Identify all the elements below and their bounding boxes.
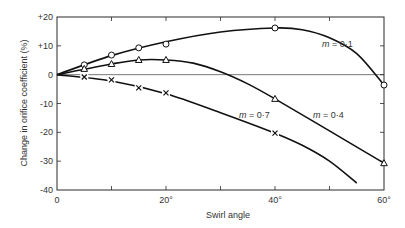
y-tick-label: 0 [48, 70, 53, 80]
x-axis-title: Swirl angle [206, 210, 250, 220]
circle-marker-icon [381, 82, 387, 88]
y-tick-label: +10 [38, 41, 53, 51]
x-tick-label: 40° [268, 195, 282, 205]
circle-marker-icon [136, 45, 142, 51]
x-tick-label: 20° [159, 195, 173, 205]
series-label-m04: m = 0·4 [313, 110, 344, 120]
y-axis-title: Change in orifice coefficient (%) [19, 40, 29, 167]
x-tick-label: 60° [377, 195, 391, 205]
circle-marker-icon [272, 25, 278, 31]
swirl-angle-chart: 020°40°60°+20+100-10-20-30-40 m = 0·1 m … [0, 0, 405, 228]
y-tick-label: -20 [40, 127, 53, 137]
y-tick-label: +20 [38, 12, 53, 22]
series-line-m01 [57, 28, 384, 85]
plot-labels: m = 0·1 m = 0·7 m = 0·4 Swirl angle Chan… [19, 39, 353, 220]
series-label-m01: m = 0·1 [322, 39, 353, 49]
series-line-m07 [57, 75, 357, 183]
y-tick-label: -40 [40, 185, 53, 195]
circle-marker-icon [163, 41, 169, 47]
y-tick-label: -30 [40, 156, 53, 166]
x-tick-label: 0 [54, 195, 59, 205]
y-tick-label: -10 [40, 99, 53, 109]
series-label-m07: m = 0·7 [239, 110, 270, 120]
circle-marker-icon [109, 52, 115, 58]
